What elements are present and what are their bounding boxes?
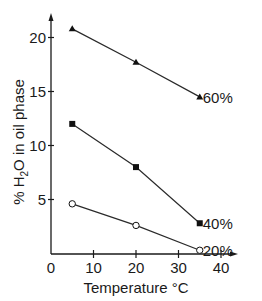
y-tick-label: 20 — [29, 29, 46, 46]
circle-marker-icon — [133, 222, 139, 228]
x-axis-label: Temperature °C — [83, 279, 188, 296]
y-tick-label: 10 — [29, 137, 46, 154]
y-ticks: 5101520 — [29, 29, 54, 208]
series-60pct: 60% — [69, 25, 233, 106]
chart: 010203040 5101520 Temperature °C % H2O i… — [0, 0, 262, 301]
y-axis-arrow-icon — [49, 13, 54, 21]
y-tick-label: 15 — [29, 83, 46, 100]
circle-marker-icon — [69, 201, 75, 207]
x-tick-label: 10 — [85, 259, 102, 276]
series-label: 60% — [203, 89, 233, 106]
x-tick-label: 20 — [128, 259, 145, 276]
triangle-marker-icon — [133, 59, 140, 65]
triangle-marker-icon — [69, 25, 76, 31]
series-40pct: 40% — [69, 121, 233, 232]
series-group: 60%40%20% — [69, 25, 233, 259]
x-tick-label: 40 — [213, 259, 230, 276]
x-tick-label: 0 — [47, 259, 55, 276]
series-label: 20% — [203, 242, 233, 259]
x-tick-label: 30 — [170, 259, 187, 276]
y-axis-label: % H2O in oil phase — [10, 79, 30, 205]
square-marker-icon — [69, 121, 75, 127]
square-marker-icon — [133, 164, 139, 170]
series-label: 40% — [203, 215, 233, 232]
y-tick-label: 5 — [38, 191, 46, 208]
series-line — [72, 124, 200, 223]
